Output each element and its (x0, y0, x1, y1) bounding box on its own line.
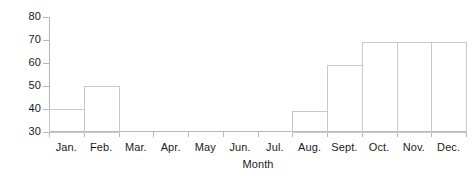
y-tick-50 (43, 86, 49, 87)
x-tick-label: Jul. (258, 141, 293, 153)
x-tick-label: Apr. (153, 141, 188, 153)
bar-jan (49, 109, 85, 133)
y-tick-label: 80 (15, 11, 41, 22)
y-tick-label: 30 (15, 126, 41, 137)
bar-chart: Number 304050607080 Jan.Feb.Mar.Apr.MayJ… (0, 0, 476, 180)
bar-aug (292, 111, 328, 133)
bar-nov (397, 42, 432, 133)
y-tick-60 (43, 63, 49, 64)
y-tick-label: 50 (15, 80, 41, 91)
bar-feb (84, 86, 120, 133)
x-tick-label: Nov. (397, 141, 432, 153)
bar-sept (327, 65, 363, 133)
x-tick (223, 132, 224, 137)
x-tick (153, 132, 154, 137)
y-tick-label: 60 (15, 57, 41, 68)
x-tick-label: Sept. (327, 141, 362, 153)
x-tick-label: Feb. (84, 141, 119, 153)
x-tick-label: Jan. (49, 141, 84, 153)
x-tick-label: Oct. (362, 141, 397, 153)
x-axis-title: Month (48, 158, 468, 170)
x-tick-label: Jun. (223, 141, 258, 153)
x-tick-label: Aug. (292, 141, 327, 153)
y-tick-70 (43, 40, 49, 41)
x-tick (258, 132, 259, 137)
y-tick-label: 70 (15, 34, 41, 45)
bar-dec (431, 42, 467, 133)
x-tick-label: Mar. (119, 141, 154, 153)
bar-oct (362, 42, 398, 133)
y-tick-label: 40 (15, 103, 41, 114)
x-tick-label: Dec. (431, 141, 466, 153)
x-tick (188, 132, 189, 137)
plot-area: 304050607080 Jan.Feb.Mar.Apr.MayJun.Jul.… (49, 17, 466, 132)
y-tick-80 (43, 17, 49, 18)
x-tick-label: May (188, 141, 223, 153)
